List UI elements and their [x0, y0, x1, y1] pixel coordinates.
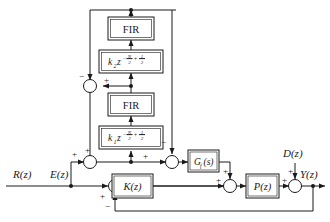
signal-label-input: R(z) [12, 168, 32, 181]
node-dot-top-bus [129, 8, 133, 12]
sign-inner-left-minus: − [79, 71, 84, 81]
sign-gf-minus: − [161, 137, 166, 147]
block-diagram-canvas: FIR k 2 z − N 2 + 1 2 FIR [0, 0, 330, 222]
sign-inner-right-plus: + [104, 75, 109, 85]
sign-out-plus-left: + [282, 175, 287, 185]
summing-junction-plant [224, 180, 237, 193]
block-k1-exp-num2: 1 [141, 130, 144, 135]
sign-lower-plus-a: + [72, 149, 77, 159]
summing-junction-gf [166, 156, 179, 169]
sign-out-plus-dist: + [288, 166, 293, 176]
summing-junction-lower [84, 156, 97, 169]
sign-main-input-plus: + [100, 191, 105, 201]
block-k2-exp-sign2: + [134, 56, 137, 62]
block-fir-bottom-label: FIR [123, 100, 139, 111]
wire-e-branch-up [71, 162, 84, 186]
block-k1: k 1 z − N 2 + 1 2 [99, 126, 163, 149]
summing-junction-inner [84, 80, 97, 93]
sign-lower-plus-b: + [85, 145, 90, 155]
block-pz-label: P(z) [253, 181, 272, 193]
block-kz: K(z) [112, 174, 153, 198]
diagram-svg: FIR k 2 z − N 2 + 1 2 FIR [0, 0, 330, 222]
block-pz: P(z) [246, 174, 279, 198]
signal-label-error: E(z) [49, 168, 69, 181]
sign-lower-plus-c: + [143, 151, 148, 161]
block-k2-exp-num1: N [127, 54, 132, 59]
block-fir-bottom: FIR [108, 93, 154, 116]
signal-label-disturbance: D(z) [282, 147, 303, 160]
block-kz-label: K(z) [122, 181, 142, 193]
node-dot-lower-line [129, 160, 133, 164]
sign-plant-plus-top: + [223, 166, 228, 176]
node-dot-output-branch [311, 184, 315, 188]
signal-label-output: Y(z) [300, 168, 318, 181]
block-fir-top: FIR [108, 17, 154, 40]
summing-junction-output [289, 180, 302, 193]
block-gf-label-arg: (s) [204, 157, 214, 168]
block-k1-label-var: z [116, 133, 121, 143]
wire-firbot-to-innersum [103, 86, 131, 93]
node-dot-inner-line [129, 84, 133, 88]
block-k2-exp-num2: 1 [141, 54, 144, 59]
block-k1-exp-num1: N [127, 130, 132, 135]
sign-main-feedback-minus: − [105, 201, 110, 211]
block-k1-exp-sign1: − [123, 131, 126, 137]
node-dot-error-branch [69, 184, 73, 188]
block-k2-exp-sign1: − [123, 55, 126, 61]
block-k1-exp-sign2: + [134, 132, 137, 138]
sign-plant-plus-left: + [216, 175, 221, 185]
block-fir-top-label: FIR [123, 24, 139, 35]
block-k2-label-var: z [116, 57, 121, 67]
block-gf: G f (s) [188, 150, 219, 172]
block-k2: k 2 z − N 2 + 1 2 [99, 50, 163, 73]
